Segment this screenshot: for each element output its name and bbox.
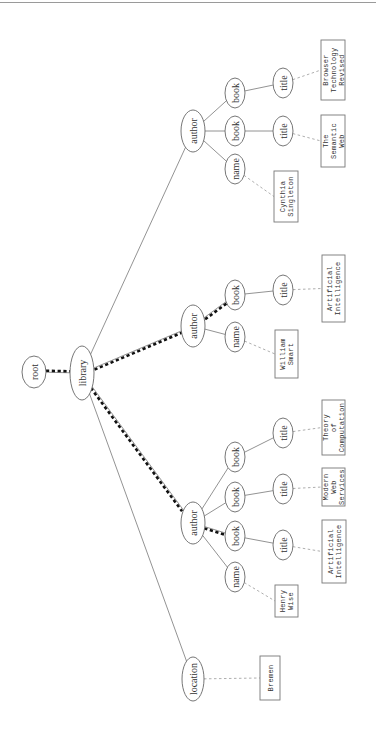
node-label-author1-book3-title: title [278,425,289,441]
node-label-author1-book2-title: title [278,481,289,497]
node-label-author3-book2-title: title [278,75,289,91]
edge-author1-book3-author1-book3-title [244,438,273,453]
node-label-author3-book1-title: title [278,123,289,139]
node-author2-name: name [225,322,245,352]
node-author1-book1: book [225,521,245,551]
edge-author2-author2-name [205,329,225,334]
node-author3-book2: book [225,78,245,108]
node-author3-name: name [225,154,245,184]
edge-author1-author1-name [203,535,228,567]
node-label-author2-name: name [230,326,241,348]
node-author1-name: name [225,562,245,592]
leaf-edge-leaf-ai2 [293,289,322,290]
leaf-william-text: WilliamSmart [279,338,295,370]
leaf-edge-leaf-ai1 [293,547,322,552]
edge-author1-book1-author1-book1-title [245,538,273,543]
highlight-edge-library-author1 [91,388,182,511]
edge-author3-author3-name [204,141,227,162]
leaf-ai1-text: ArtificialIntelligence [327,524,343,578]
node-author3-book1: book [225,116,245,146]
node-label-author2-book1-title: title [278,282,289,298]
edge-author2-author2-book1 [204,302,226,318]
leaf-browser-box: BrowserTechnologyRevised [321,40,346,100]
node-library: library [70,346,94,400]
node-label-author1-book2: book [230,487,241,507]
node-label-author1: author [188,510,199,536]
leaf-ai2-box: ArtificialIntelligence [322,255,345,322]
highlight-edge-root-library [46,371,70,372]
node-label-author3: author [188,118,199,144]
node-author2-book1-title: title [273,275,293,305]
node-author1-book2: book [225,482,245,512]
edge-author1-author1-book3 [202,468,228,509]
leaf-edge-leaf-william [245,341,275,354]
leaf-edge-leaf-modern [293,487,322,488]
node-label-author2: author [188,313,199,339]
leaf-william-box: WilliamSmart [275,330,298,378]
node-author1-book2-title: title [273,474,293,504]
node-label-author1-book1: book [230,526,241,546]
edge-library-author2 [94,331,182,368]
leaf-edge-leaf-semantic [293,134,321,141]
highlight-edge-author2-author2-book1 [205,303,227,319]
node-author1-book3-title: title [273,418,293,448]
edge-library-author3 [91,147,186,354]
leaf-edge-leaf-cynthia [244,175,274,196]
node-author2-book1: book [225,280,245,310]
node-root: root [22,356,46,388]
node-label-author3-book1: book [230,121,241,141]
xml-tree-diagram: rootlibraryauthornamebookbooktitletitlea… [0,0,376,734]
edge-author1-book2-author1-book2-title [245,491,273,496]
edge-author3-book2-author3-book2-title [245,85,273,91]
leaf-cynthia-box: CynthiaSingleton [274,171,298,222]
node-label-library: library [77,360,88,387]
leaf-bremen-text: Bremen [267,664,275,691]
node-author3: author [181,110,205,152]
leaf-bremen-box: Bremen [260,656,280,700]
leaf-edges-layer [204,70,322,679]
highlight-edge-library-author2 [94,333,182,370]
node-label-root: root [29,364,40,380]
leaf-ai1-box: ArtificialIntelligence [322,520,346,583]
node-author1-book3: book [225,442,245,472]
leaf-edge-leaf-henry [244,583,275,601]
edge-library-author1 [92,387,183,510]
edge-library-location [90,394,187,661]
leaf-ai2-text: ArtificialIntelligence [326,261,342,315]
leaf-semantic-box: TheSemanticWeb [321,115,346,167]
node-label-author1-name: name [230,566,241,588]
node-author1: author [181,502,205,544]
leaf-henry-box: HenryWise [275,585,298,617]
node-label-location: location [188,663,199,695]
leaf-cynthia-text: CynthiaSingleton [279,176,295,217]
node-label-author1-book1-title: title [278,537,289,553]
edge-author3-author3-book2 [204,101,227,122]
leaf-edge-leaf-theory [293,428,322,432]
node-author3-book2-title: title [273,68,293,98]
node-label-author2-book1: book [230,285,241,305]
node-location: location [182,657,204,701]
leaf-modern-box: ModernWebServices [322,468,346,506]
node-author3-book1-title: title [273,116,293,146]
leaf-edge-leaf-bremen [204,678,260,679]
node-label-author3-book2: book [230,83,241,103]
node-author1-book1-title: title [273,530,293,560]
edge-author1-author1-book1 [205,527,225,533]
leaf-theory-box: TheoryofComputation [322,400,346,455]
node-author2: author [181,305,205,347]
edge-author1-author1-book2 [204,503,225,516]
leaf-browser-text: BrowserTechnologyRevised [322,47,346,92]
leaf-henry-text: HenryWise [279,590,295,613]
leaf-edge-leaf-browser [293,70,321,80]
node-label-author1-book3: book [230,447,241,467]
nodes-layer: rootlibraryauthornamebookbooktitletitlea… [22,68,293,701]
edge-author2-book1-author2-book1-title [245,291,273,294]
node-label-author3-name: name [230,158,241,180]
leaves-layer: BrowserTechnologyRevisedTheSemanticWebCy… [260,40,346,700]
